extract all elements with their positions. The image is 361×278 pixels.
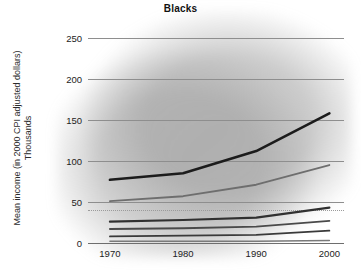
series-line-4 [110,231,329,237]
y-tick-label-100: 100 [66,155,82,166]
series-line-1 [110,165,329,201]
y-axis-label-line2: Thousands [23,50,34,225]
x-tick-label-1980: 1980 [173,248,194,259]
chart-title: Blacks [0,3,361,14]
plot-area: 050100150200250 1970198019902000 [88,28,344,243]
y-axis-label: Mean income (in 2000 CPI adjusted dollar… [2,18,44,258]
y-tick-label-250: 250 [66,32,82,43]
series-line-3 [110,221,329,229]
x-tick-label-1970: 1970 [99,248,120,259]
chart-root: Blacks Mean income (in 2000 CPI adjusted… [0,0,361,278]
y-tick-label-150: 150 [66,114,82,125]
series-lines [88,28,344,243]
y-tick-label-200: 200 [66,73,82,84]
x-axis-line [88,243,344,244]
series-line-0 [110,113,329,179]
y-axis-label-line1: Mean income (in 2000 CPI adjusted dollar… [12,50,23,225]
y-tick-label-50: 50 [71,197,82,208]
series-line-5 [110,241,329,242]
y-tick-label-0: 0 [77,238,82,249]
series-line-2 [110,208,329,222]
x-tick-label-1990: 1990 [246,248,267,259]
x-tick-label-2000: 2000 [319,248,340,259]
